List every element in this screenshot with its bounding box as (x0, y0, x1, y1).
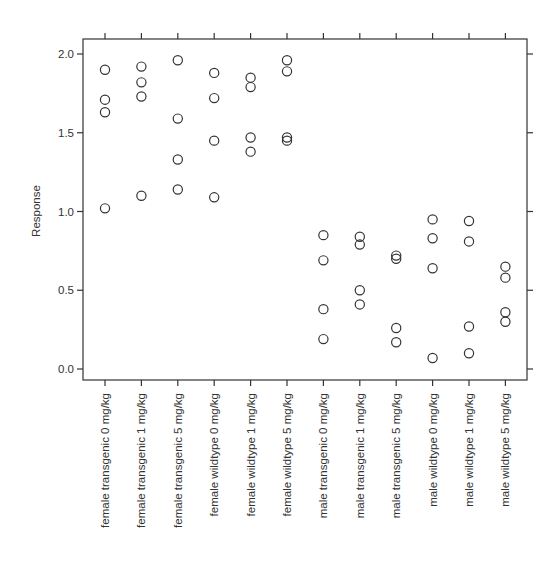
data-point (501, 273, 510, 282)
data-point (210, 193, 219, 202)
x-tick-label: male transgenic 0 mg/kg (317, 393, 329, 518)
x-tick-label: female transgenic 1 mg/kg (135, 393, 147, 528)
x-tick-label: male wildtype 5 mg/kg (499, 393, 511, 507)
data-point (428, 353, 437, 362)
data-point (246, 82, 255, 91)
x-tick-label: male wildtype 1 mg/kg (463, 393, 475, 507)
data-point (246, 73, 255, 82)
data-point (501, 308, 510, 317)
data-point (210, 94, 219, 103)
data-point (173, 185, 182, 194)
data-point (464, 237, 473, 246)
data-point (355, 286, 364, 295)
data-point (319, 334, 328, 343)
x-tick-label: female transgenic 0 mg/kg (99, 393, 111, 528)
data-point (319, 305, 328, 314)
y-axis: 0.00.51.01.52.0 (58, 48, 533, 375)
y-tick-label: 1.5 (58, 127, 74, 139)
data-point (428, 215, 437, 224)
data-point (428, 264, 437, 273)
data-point (137, 191, 146, 200)
data-point (210, 136, 219, 145)
data-point (392, 323, 401, 332)
data-point (319, 231, 328, 240)
data-point (501, 262, 510, 271)
data-point (173, 114, 182, 123)
data-point (100, 65, 109, 74)
plot-frame (83, 39, 527, 380)
y-axis-title: Response (30, 185, 42, 237)
y-axis-title-group: Response (30, 185, 42, 237)
data-point (100, 95, 109, 104)
data-point (355, 300, 364, 309)
data-point (100, 204, 109, 213)
x-tick-label: female wildtype 0 mg/kg (208, 393, 220, 516)
x-tick-label: male transgenic 1 mg/kg (354, 393, 366, 518)
data-points (100, 56, 510, 363)
data-point (137, 78, 146, 87)
y-tick-label: 0.0 (58, 363, 74, 375)
data-point (282, 56, 291, 65)
x-tick-label: male transgenic 5 mg/kg (390, 393, 402, 518)
y-tick-label: 0.5 (58, 284, 74, 296)
data-point (173, 56, 182, 65)
data-point (246, 133, 255, 142)
data-point (173, 155, 182, 164)
data-point (392, 338, 401, 347)
data-point (464, 349, 473, 358)
data-point (464, 322, 473, 331)
data-point (137, 62, 146, 71)
x-tick-label: male wildtype 0 mg/kg (427, 393, 439, 507)
x-tick-label: female transgenic 5 mg/kg (172, 393, 184, 528)
y-tick-label: 2.0 (58, 48, 74, 60)
data-point (210, 68, 219, 77)
data-point (137, 92, 146, 101)
data-point (100, 108, 109, 117)
x-axis: female transgenic 0 mg/kgfemale transgen… (99, 33, 511, 528)
x-tick-label: female wildtype 1 mg/kg (245, 393, 257, 516)
data-point (282, 67, 291, 76)
data-point (246, 147, 255, 156)
data-point (464, 216, 473, 225)
dot-plot: Response 0.00.51.01.52.0 female transgen… (0, 0, 555, 562)
data-point (501, 317, 510, 326)
data-point (428, 234, 437, 243)
data-point (319, 256, 328, 265)
y-tick-label: 1.0 (58, 206, 74, 218)
x-tick-label: female wildtype 5 mg/kg (281, 393, 293, 516)
